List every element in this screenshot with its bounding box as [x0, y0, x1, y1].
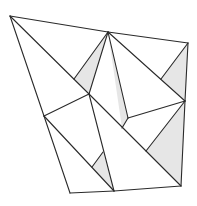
edge-hf: [44, 116, 114, 191]
edge-ef: [114, 186, 181, 191]
edge-ha: [10, 16, 44, 116]
edge-fg: [70, 191, 114, 193]
edge-bc: [108, 32, 188, 43]
edge-ab: [10, 16, 108, 32]
polygon-dissection-figure: [0, 0, 197, 206]
edge-ai: [10, 16, 89, 94]
diagram-canvas: [0, 0, 197, 206]
edge-gh: [44, 116, 70, 193]
edge-bj: [108, 32, 128, 118]
edge-ih: [44, 94, 89, 116]
